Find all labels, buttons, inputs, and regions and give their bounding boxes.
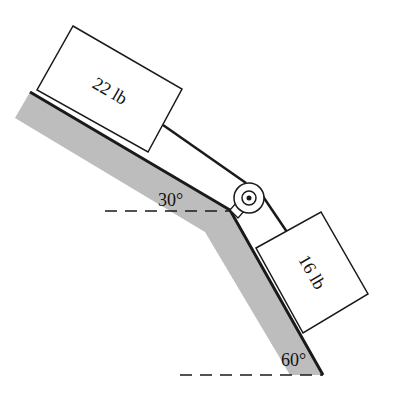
rope-upper [163,125,246,183]
diagram-canvas: 22 lb 16 lb 30° 60° [0,0,395,400]
angle-label-60: 60° [281,350,306,370]
ground-surface [15,92,323,375]
rope-lower [262,195,287,232]
pulley [234,183,264,213]
angle-label-30: 30° [158,190,183,210]
